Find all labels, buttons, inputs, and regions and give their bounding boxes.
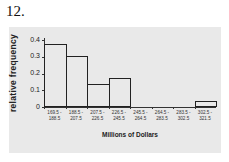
x-tick-label: 226.5 -245.5 <box>109 110 130 122</box>
histogram-bar <box>87 84 110 107</box>
x-tick-line: 245.5 <box>109 116 130 122</box>
x-tick-mark <box>66 107 67 109</box>
x-tick-label: 245.5 -264.5 <box>130 110 151 122</box>
x-tick-mark <box>173 107 174 109</box>
x-tick-label: 188.5 -207.5 <box>66 110 87 122</box>
x-tick-mark <box>44 107 45 109</box>
histogram-bar <box>44 44 67 107</box>
x-tick-line: 207.5 <box>66 116 87 122</box>
x-tick-mark <box>87 107 88 109</box>
x-tick-label: 207.5 -226.5 <box>87 110 108 122</box>
x-tick-mark <box>130 107 131 109</box>
histogram-bar <box>195 101 218 107</box>
x-tick-line: 302.5 <box>173 116 194 122</box>
y-tick-label: 0.4 <box>26 36 40 43</box>
x-tick-line: 188.5 <box>44 116 65 122</box>
x-tick-line: 264.5 <box>130 116 151 122</box>
x-tick-line: 321.5 <box>195 116 216 122</box>
plot-area <box>44 40 216 107</box>
question-number: 12. <box>6 3 25 20</box>
x-tick-label: 283.5 -302.5 <box>173 110 194 122</box>
histogram-bar <box>109 78 132 107</box>
x-tick-mark <box>109 107 110 109</box>
y-tick-label: 0.2 <box>26 69 40 76</box>
y-tick-label: 0 <box>26 103 40 110</box>
y-axis-label: relative frequency <box>8 34 18 112</box>
histogram-bar <box>66 56 89 107</box>
x-tick-mark <box>195 107 196 109</box>
y-tick-label: 0.3 <box>26 52 40 59</box>
x-tick-label: 302.5 -321.5 <box>195 110 216 122</box>
y-tick-label: 0.1 <box>26 86 40 93</box>
x-tick-line: 226.5 <box>87 116 108 122</box>
x-tick-line: 283.5 <box>152 116 173 122</box>
x-tick-mark <box>152 107 153 109</box>
x-tick-label: 169.5 -188.5 <box>44 110 65 122</box>
x-tick-label: 264.5 -283.5 <box>152 110 173 122</box>
x-axis-label: Millions of Dollars <box>44 131 216 138</box>
